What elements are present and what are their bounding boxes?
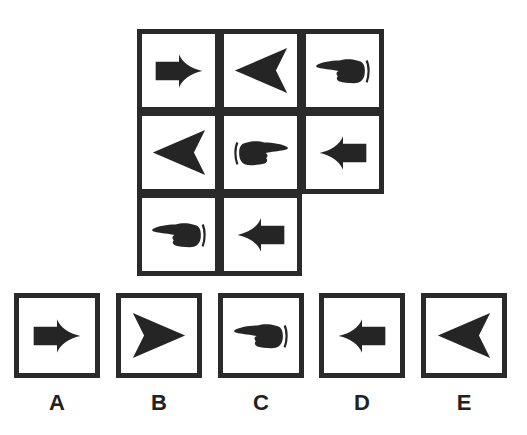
block-arrow-right-icon bbox=[154, 54, 204, 88]
pointing-hand-left-icon bbox=[151, 219, 207, 251]
matrix-cell-r1c2 bbox=[219, 29, 302, 112]
option-b-label: B bbox=[116, 390, 202, 416]
matrix-cell-r1c1 bbox=[137, 29, 220, 112]
block-arrow-right-icon bbox=[32, 319, 82, 353]
block-arrow-left-icon bbox=[318, 136, 368, 170]
block-arrow-left-icon bbox=[236, 218, 286, 252]
option-d[interactable] bbox=[319, 293, 405, 378]
matrix-cell-r1c3 bbox=[301, 29, 384, 112]
arrowhead-left-icon bbox=[436, 313, 492, 358]
matrix-cell-r3c1 bbox=[137, 193, 220, 276]
matrix-cell-r2c2 bbox=[219, 111, 302, 194]
option-c-label: C bbox=[218, 390, 304, 416]
pointing-hand-left-icon bbox=[233, 320, 289, 352]
option-e[interactable] bbox=[421, 293, 507, 378]
matrix-cell-r2c3 bbox=[301, 111, 384, 194]
option-a[interactable] bbox=[14, 293, 100, 378]
matrix-cell-r2c1 bbox=[137, 111, 220, 194]
arrowhead-left-icon bbox=[151, 130, 207, 175]
option-c[interactable] bbox=[218, 293, 304, 378]
arrowhead-right-icon bbox=[131, 313, 187, 358]
arrowhead-left-icon bbox=[233, 48, 289, 93]
puzzle-matrix bbox=[137, 29, 385, 277]
option-a-label: A bbox=[14, 390, 100, 416]
option-b[interactable] bbox=[116, 293, 202, 378]
pointing-hand-left-icon bbox=[315, 55, 371, 87]
pointing-hand-right-icon bbox=[233, 137, 289, 169]
matrix-cell-missing bbox=[301, 193, 384, 276]
block-arrow-left-icon bbox=[337, 319, 387, 353]
matrix-cell-r3c2 bbox=[219, 193, 302, 276]
option-e-label: E bbox=[421, 390, 507, 416]
option-d-label: D bbox=[319, 390, 405, 416]
